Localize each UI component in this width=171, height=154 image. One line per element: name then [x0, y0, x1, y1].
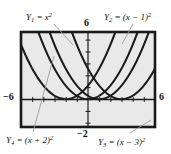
- axis-label-top: 6: [84, 17, 89, 28]
- curve-label-y2-eq: = (x − 1): [112, 12, 148, 22]
- curve-label-y4: Y4 = (x + 2)2: [6, 134, 53, 146]
- axis-label-bottom: −2: [77, 128, 88, 139]
- curve-label-y2: Y2 = (x − 1)2: [104, 11, 151, 23]
- curve-label-y1-sup: 2: [49, 11, 52, 18]
- curve-label-y2-sup: 2: [148, 11, 151, 18]
- figure-container: Y1 = x2 Y2 = (x − 1)2 Y4 = (x + 2)2 Y3 =…: [0, 0, 171, 154]
- curve-label-y1: Y1 = x2: [26, 11, 52, 23]
- axis-label-right: 6: [159, 91, 164, 102]
- curve-label-y4-sup: 2: [50, 134, 53, 141]
- curve-label-y3: Y3 = (x − 3)2: [98, 136, 145, 148]
- curve-label-y3-sup: 2: [142, 136, 145, 143]
- curve-label-y3-eq: = (x − 3): [106, 137, 142, 147]
- curve-label-y4-eq: = (x + 2): [14, 135, 50, 145]
- curve-label-y1-eq: = x: [34, 12, 49, 22]
- axis-label-left: −6: [3, 91, 14, 102]
